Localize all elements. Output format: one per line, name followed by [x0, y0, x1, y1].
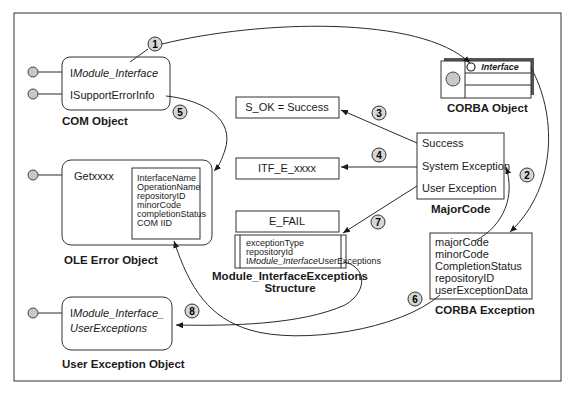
flow-1-arrow: [162, 26, 470, 63]
user-exception-port-icon: [28, 308, 38, 318]
svg-text:1: 1: [152, 39, 158, 50]
com-object-label: COM Object: [62, 115, 128, 127]
svg-text:IModule_InterfaceUserException: IModule_InterfaceUserExceptions: [246, 256, 382, 266]
corba-object-circle-icon: [446, 72, 460, 86]
ole-error-object: Getxxxx InterfaceName OperationName repo…: [28, 160, 212, 266]
corba-object-label: CORBA Object: [447, 102, 528, 114]
com-port-icon: [28, 89, 38, 99]
major-code-success: Success: [422, 137, 464, 149]
ole-port-icon: [28, 170, 38, 180]
svg-text:3: 3: [376, 108, 382, 119]
callout-8: 8: [185, 304, 199, 318]
exceptions-structure: exceptionType repositoryId IModule_Inter…: [212, 235, 382, 294]
svg-text:S_OK = Success: S_OK = Success: [245, 101, 329, 113]
com-object: IModule_Interface ISupportErrorInfo COM …: [28, 57, 170, 127]
svg-text:8: 8: [189, 306, 195, 317]
major-code-user-exception: User Exception: [422, 182, 497, 194]
svg-text:COM IID: COM IID: [137, 218, 172, 228]
com-port-icon: [28, 67, 38, 77]
corba-interface-label: Interface: [481, 62, 519, 72]
callout-1: 1: [148, 37, 162, 51]
com-interface-supporterrorinfo: ISupportErrorInfo: [70, 89, 154, 101]
svg-text:IModule_Interface_: IModule_Interface_: [70, 307, 164, 319]
callout-7: 7: [371, 215, 385, 229]
callout-3: 3: [372, 106, 386, 120]
ole-method: Getxxxx: [74, 170, 114, 182]
user-exception-object-label: User Exception Object: [62, 358, 185, 370]
callout-5: 5: [173, 105, 187, 119]
svg-text:repositoryID: repositoryID: [435, 272, 494, 284]
svg-text:4: 4: [376, 150, 382, 161]
callout-4: 4: [372, 148, 386, 162]
corba-exception-label: CORBA Exception: [435, 304, 535, 316]
svg-text:E_FAIL: E_FAIL: [269, 215, 305, 227]
s-ok-box: S_OK = Success: [236, 97, 339, 118]
svg-text:5: 5: [177, 107, 183, 118]
svg-text:6: 6: [412, 294, 418, 305]
com-interface-module: IModule_Interface: [70, 67, 158, 79]
major-code-label: MajorCode: [431, 203, 490, 215]
corba-object: Interface CORBA Object: [441, 58, 534, 114]
corba-interface-socket-icon: [467, 63, 475, 71]
major-code: Success System Exception User Exception …: [417, 133, 510, 215]
svg-text:ITF_E_xxxx: ITF_E_xxxx: [258, 162, 317, 174]
svg-text:userExceptionData: userExceptionData: [435, 284, 529, 296]
exceptions-structure-label-2: Structure: [264, 282, 315, 294]
user-exception-object: IModule_Interface_ UserExceptions User E…: [28, 297, 185, 370]
svg-text:7: 7: [375, 217, 381, 228]
svg-text:minorCode: minorCode: [435, 248, 489, 260]
svg-text:CompletionStatus: CompletionStatus: [435, 260, 522, 272]
exceptions-structure-label-1: Module_InterfaceExceptions: [212, 270, 368, 282]
svg-text:UserExceptions: UserExceptions: [70, 322, 148, 334]
corba-exception: majorCode minorCode CompletionStatus rep…: [430, 233, 535, 316]
major-code-system-exception: System Exception: [422, 160, 510, 172]
ole-error-object-label: OLE Error Object: [64, 254, 158, 266]
diagram-canvas: IModule_Interface ISupportErrorInfo COM …: [0, 0, 571, 397]
callout-2: 2: [520, 168, 534, 182]
callout-6: 6: [408, 292, 422, 306]
svg-text:2: 2: [524, 170, 530, 181]
e-fail-box: E_FAIL: [236, 211, 339, 232]
itf-e-box: ITF_E_xxxx: [236, 158, 339, 179]
